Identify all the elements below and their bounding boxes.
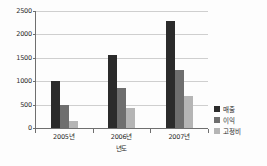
legend-item-매출[interactable]: 매출 xyxy=(214,103,266,114)
x-axis-category-label: 2007년 xyxy=(150,131,208,141)
x-axis-tick-mark xyxy=(208,129,209,133)
legend-item-이익[interactable]: 이익 xyxy=(214,114,266,125)
x-axis-title: 년도 xyxy=(35,143,208,153)
bar-이익-2006년 xyxy=(117,88,126,128)
x-axis-tick-mark xyxy=(93,129,94,133)
y-axis-tick-label: 2000 xyxy=(2,31,32,38)
bar-고정비-2006년 xyxy=(126,108,135,128)
bar-group-2006년 xyxy=(108,11,135,128)
y-axis-tick-label: 1000 xyxy=(2,78,32,85)
y-axis-tick-label: 2500 xyxy=(2,8,32,15)
y-axis-tick-label: 1500 xyxy=(2,55,32,62)
bar-고정비-2007년 xyxy=(184,96,193,128)
bar-group-2005년 xyxy=(51,11,78,128)
y-axis-tick-label: 500 xyxy=(2,102,32,109)
bar-groups xyxy=(36,11,208,128)
category-axis: 2005년2006년2007년 xyxy=(35,129,208,141)
bar-이익-2005년 xyxy=(60,105,69,128)
legend-label: 고정비 xyxy=(223,126,240,136)
bar-매출-2007년 xyxy=(166,21,175,128)
plot-wrapper: 05001000150020002500 2005년2006년2007년 년도 xyxy=(0,0,210,166)
bar-매출-2006년 xyxy=(108,55,117,128)
x-axis-tick-mark xyxy=(35,129,36,133)
bar-매출-2005년 xyxy=(51,81,60,128)
bar-chart: 05001000150020002500 2005년2006년2007년 년도 … xyxy=(0,0,267,166)
x-axis-category-label: 2005년 xyxy=(35,131,93,141)
x-axis-category-label: 2006년 xyxy=(93,131,151,141)
legend-label: 이익 xyxy=(223,115,235,125)
x-axis-tick-mark xyxy=(150,129,151,133)
legend-swatch-icon xyxy=(214,106,220,112)
bar-이익-2007년 xyxy=(175,70,184,129)
legend-item-고정비[interactable]: 고정비 xyxy=(214,125,266,136)
legend-swatch-icon xyxy=(214,128,220,134)
bar-group-2007년 xyxy=(166,11,193,128)
y-axis-tick-label: 0 xyxy=(2,125,32,132)
chart-legend: 매출이익고정비 xyxy=(214,103,266,136)
plot-area xyxy=(35,11,208,129)
legend-label: 매출 xyxy=(223,104,235,114)
legend-swatch-icon xyxy=(214,117,220,123)
bar-고정비-2005년 xyxy=(69,121,78,128)
y-axis-tick-labels: 05001000150020002500 xyxy=(2,0,32,166)
